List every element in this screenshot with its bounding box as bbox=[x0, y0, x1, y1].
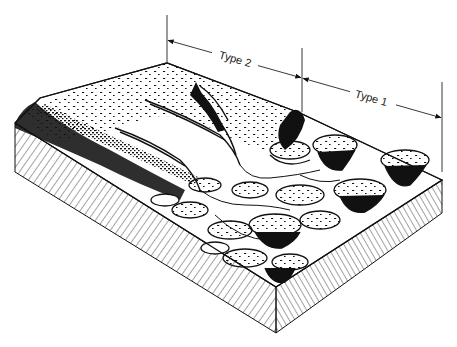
terrain-block-diagram: Type 2 Type 1 bbox=[0, 0, 457, 347]
type1-label: Type 1 bbox=[354, 88, 389, 109]
type1-arrow-left bbox=[303, 78, 350, 91]
type1-arrow-right bbox=[396, 105, 441, 118]
type2-label: Type 2 bbox=[218, 49, 253, 69]
type2-arrow-left bbox=[168, 40, 212, 52]
type2-arrow-right bbox=[258, 66, 301, 78]
